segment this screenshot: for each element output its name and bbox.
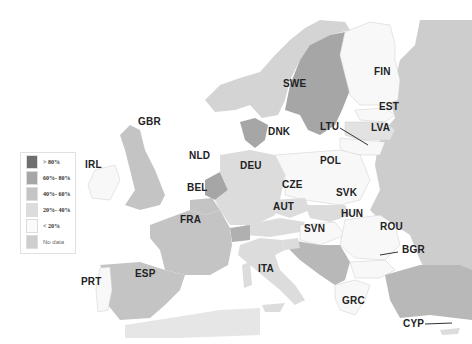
legend-item-gt80: > 80%: [26, 155, 60, 169]
label-fra: FRA: [180, 214, 201, 225]
label-dnk: DNK: [268, 126, 290, 137]
label-irl: IRL: [85, 159, 102, 170]
legend-swatch: [26, 235, 38, 249]
legend-item-60-80: 60%- 80%: [26, 171, 71, 185]
legend-label: > 80%: [43, 159, 60, 165]
label-nld: NLD: [189, 150, 210, 161]
label-rou: ROU: [380, 221, 403, 232]
label-esp: ESP: [135, 268, 156, 279]
legend-item-nodata: No data: [26, 235, 64, 249]
map-legend: > 80% 60%- 80% 40%- 60% 20%- 40% < 20% N…: [20, 152, 76, 254]
legend-swatch: [26, 219, 38, 233]
legend-swatch: [26, 187, 38, 201]
label-svk: SVK: [336, 187, 357, 198]
label-hun: HUN: [341, 208, 363, 219]
turkey-nodata: [385, 265, 472, 320]
slovenia: [282, 238, 300, 250]
label-cze: CZE: [282, 179, 303, 190]
legend-label: 40%- 60%: [43, 191, 71, 197]
legend-swatch: [26, 155, 38, 169]
legend-item-20-40: 20%- 40%: [26, 203, 71, 217]
label-pol: POL: [320, 155, 341, 166]
legend-label: < 20%: [43, 223, 60, 229]
label-ita: ITA: [258, 263, 274, 274]
legend-label: 60%- 80%: [43, 175, 71, 181]
legend-item-40-60: 40%- 60%: [26, 187, 71, 201]
label-bel: BEL: [187, 182, 208, 193]
label-grc: GRC: [342, 295, 365, 306]
legend-item-lt20: < 20%: [26, 219, 60, 233]
legend-swatch: [26, 171, 38, 185]
label-lva: LVA: [371, 122, 390, 133]
label-gbr: GBR: [138, 116, 161, 127]
legend-label: No data: [43, 239, 64, 245]
label-bgr: BGR: [402, 244, 425, 255]
label-swe: SWE: [283, 78, 306, 89]
switzerland: [230, 225, 250, 242]
label-cyp: CYP: [403, 318, 424, 329]
label-fin: FIN: [374, 66, 391, 77]
label-deu: DEU: [240, 160, 262, 171]
label-svn: SVN: [304, 223, 325, 234]
label-prt: PRT: [81, 276, 102, 287]
label-ltu: LTU: [320, 121, 339, 132]
legend-label: 20%- 40%: [43, 207, 71, 213]
label-est: EST: [379, 101, 399, 112]
label-aut: AUT: [273, 201, 294, 212]
legend-swatch: [26, 203, 38, 217]
